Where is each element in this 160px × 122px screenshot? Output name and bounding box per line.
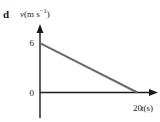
data-series-group [40, 43, 137, 92]
plot-area [0, 0, 160, 122]
velocity-line [40, 43, 137, 92]
x-axis-arrowhead [149, 89, 158, 96]
y-axis-arrowhead [37, 24, 44, 33]
velocity-time-graph-figure: d v(m s−1) t(s) 6 0 20 [0, 0, 160, 122]
axes-group [37, 24, 158, 118]
